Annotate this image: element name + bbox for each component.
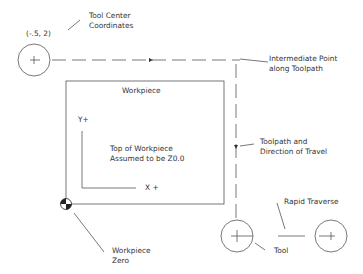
toolpath-direction-label: Toolpath and Direction of Travel [260,137,327,156]
workpiece-zero-label: Workpiece Zero [112,246,151,265]
x-axis-label: X + [145,183,159,193]
tool-center-leader [68,20,80,30]
tool-label: Tool [274,246,288,256]
tool-leader [255,243,265,250]
top-of-workpiece-label: Top of Workpiece Assumed to be Z0.0 [110,144,184,163]
intermediate-point-label: Intermediate Point along Toolpath [269,54,337,73]
direction-arrow-down [234,145,238,149]
workpiece-zero-icon [61,199,72,210]
tool-center-label: Tool Center Coordinates [89,11,133,30]
intermediate-point-leader [240,59,268,62]
toolpath-direction-leader [240,144,254,146]
direction-arrow-right [149,58,153,62]
workpiece-zero-leader [74,213,104,252]
rapid-traverse-label: Rapid Traverse [284,197,339,207]
y-axis-label: Y+ [78,115,89,125]
start-coords-label: (-.5, 2) [26,29,51,39]
rapid-traverse-leader [277,203,285,229]
workpiece-label: Workpiece [122,86,161,96]
